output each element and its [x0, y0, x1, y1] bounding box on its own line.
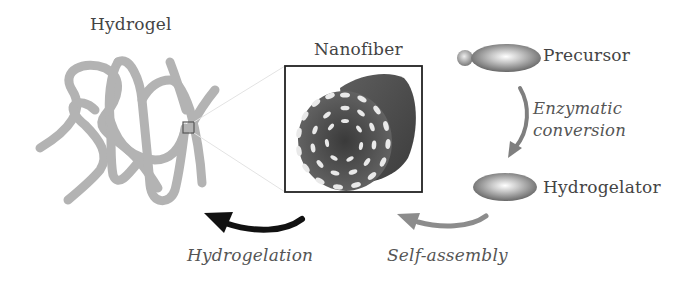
zoom-guide-lines: [194, 66, 285, 192]
enzymatic-label-line2: conversion: [533, 120, 626, 142]
nanofiber-label: Nanofiber: [314, 39, 403, 59]
enzymatic-conversion-label: Enzymatic conversion: [533, 98, 626, 142]
precursor-molecule-icon: [457, 44, 541, 72]
self-assembly-label: Self-assembly: [387, 245, 508, 265]
hydrogelator-label: Hydrogelator: [543, 177, 661, 197]
precursor-label: Precursor: [543, 45, 630, 65]
hydrogel-network: [40, 61, 215, 201]
hydrogel-label: Hydrogel: [90, 14, 172, 34]
enzymatic-label-line1: Enzymatic: [533, 98, 626, 120]
hydrogelation-label: Hydrogelation: [187, 245, 313, 265]
enzymatic-conversion-arrow: [508, 88, 527, 158]
hydrogelator-molecule-icon: [473, 173, 537, 201]
hydrogelation-arrow: [204, 212, 302, 233]
self-assembly-arrow: [397, 213, 486, 230]
